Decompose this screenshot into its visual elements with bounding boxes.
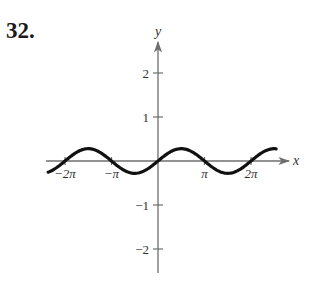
y-tick-label: 2 — [143, 66, 150, 81]
y-axis-label: y — [153, 24, 162, 39]
y-tick-label: 1 — [143, 110, 150, 125]
y-tick-label: −2 — [135, 242, 149, 257]
x-tick-label: 2π — [244, 166, 258, 181]
x-tick-label: −π — [104, 166, 120, 181]
x-axis-label: x — [292, 153, 300, 168]
sine-graph: −2π−ππ2π 21−1−2 x y — [0, 0, 309, 281]
x-tick-label: π — [201, 166, 208, 181]
y-tick-label: −1 — [135, 198, 149, 213]
